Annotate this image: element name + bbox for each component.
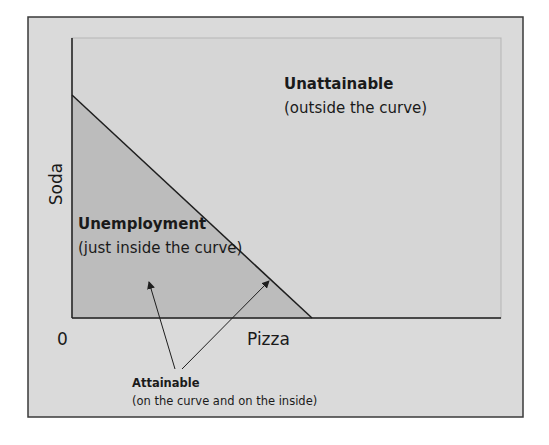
attainable-subtitle: (on the curve and on the inside) — [132, 394, 317, 408]
ppf-diagram: Soda 0 Pizza Unattainable (outside the c… — [0, 0, 549, 445]
unemployment-title: Unemployment — [78, 215, 206, 233]
unattainable-title: Unattainable — [284, 75, 393, 93]
attainable-title: Attainable — [132, 376, 200, 390]
x-axis-label: Pizza — [247, 329, 290, 349]
unattainable-subtitle: (outside the curve) — [284, 99, 427, 117]
unemployment-subtitle: (just inside the curve) — [78, 239, 242, 257]
y-axis-label: Soda — [46, 163, 66, 205]
origin-label: 0 — [57, 329, 68, 349]
